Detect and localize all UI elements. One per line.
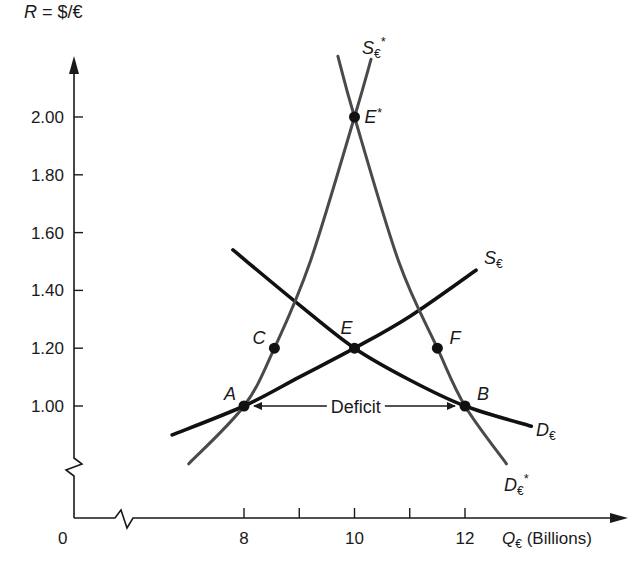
exchange-rate-chart: 1.001.201.401.601.802.00 81012 R = $/€ 0… [0,0,637,566]
y-axis [66,56,82,518]
curve-label: S€* [362,34,386,61]
point-f [432,343,443,354]
point-b [460,401,471,412]
x-axis-arrow-icon [610,513,628,523]
x-tick-label: 8 [239,529,248,548]
origin-label: 0 [58,529,67,548]
curve-seuro [172,270,476,435]
x-tick-label: 12 [456,529,475,548]
x-axis-label: Q€ (Billions) [502,529,592,551]
point-label: A [223,384,236,404]
y-axis-label: R = $/€ [24,2,83,22]
point-a [239,401,250,412]
curve-label: D€ [536,420,556,443]
y-tick-label: 1.40 [31,281,64,300]
point-label: E* [365,105,383,127]
y-tick-label: 2.00 [31,108,64,127]
curve-label: S€ [484,248,503,271]
y-axis-arrow-icon [69,56,79,74]
equilibrium-points: ABCEFE* [223,105,489,412]
point-label: F [449,328,461,348]
point-e [349,343,360,354]
y-tick-label: 1.80 [31,166,64,185]
point-label: C [252,328,266,348]
point-e-star [349,112,360,123]
x-tick-label: 10 [345,529,364,548]
y-tick-label: 1.60 [31,224,64,243]
x-axis [74,510,628,528]
y-tick-label: 1.20 [31,339,64,358]
curve-label: D€* [504,471,529,498]
x-ticks: 81012 [239,508,474,548]
deficit-label: Deficit [331,397,381,417]
y-tick-label: 1.00 [31,397,64,416]
point-label: B [477,384,489,404]
deficit-annotation: Deficit [254,392,455,417]
point-label: E [341,318,354,338]
point-c [269,343,280,354]
y-ticks: 1.001.201.401.601.802.00 [31,108,83,416]
curve-labels: S€D€S€*D€* [362,34,556,498]
